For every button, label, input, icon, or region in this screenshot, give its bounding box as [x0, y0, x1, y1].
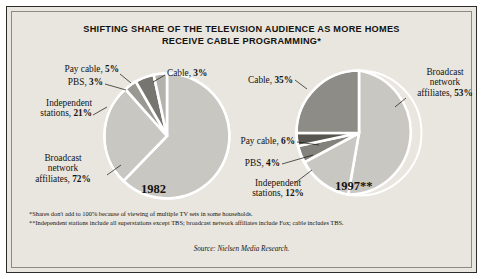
label-1982-pbs: PBS, 3%: [27, 77, 103, 87]
label-1982-pay-cable: Pay cable, 5%: [27, 64, 119, 74]
label-1997-pbs-name: PBS,: [245, 158, 264, 168]
label-1997-broadcast-line-3: affiliates, 53%: [403, 88, 477, 98]
chart-title-line-1: SHIFTING SHARE OF THE TELEVISION AUDIENC…: [7, 24, 476, 36]
label-1997-independent-value: 12%: [285, 188, 304, 198]
label-1982-pay-cable-name: Pay cable,: [65, 64, 103, 74]
label-1997-pay-cable-name: Pay cable,: [241, 136, 279, 146]
label-1997-pay-cable-value: 6%: [281, 136, 295, 146]
label-1997-independent-stations: Independent stations, 12%: [235, 178, 321, 199]
label-1997-independent-line-2: stations, 12%: [235, 188, 321, 198]
label-1982-broadcast-line-1: Broadcast: [21, 153, 105, 163]
label-1982-broadcast-line-2: network: [21, 163, 105, 173]
label-1997-broadcast-affiliates: Broadcast network affiliates, 53%: [403, 67, 477, 98]
label-1982-broadcast-name: affiliates,: [35, 174, 70, 184]
label-1982-cable: Cable, 3%: [167, 68, 207, 78]
label-1997-independent-name: stations,: [252, 188, 283, 198]
label-1982-cable-value: 3%: [193, 68, 207, 78]
label-1997-broadcast-line-1: Broadcast: [403, 67, 477, 77]
label-1997-broadcast-line-2: network: [403, 77, 477, 87]
year-label-1982: 1982: [141, 182, 166, 197]
footnote-1: *Shares don't add to 100% because of vie…: [29, 210, 253, 219]
label-1982-independent-name: stations,: [40, 108, 71, 118]
label-1982-broadcast-affiliates: Broadcast network affiliates, 72%: [21, 153, 105, 184]
label-1982-broadcast-line-3: affiliates, 72%: [21, 174, 105, 184]
source-text: Nielsen Media Research.: [216, 245, 290, 253]
source-line: Source: Nielsen Media Research.: [7, 245, 476, 253]
label-1997-pbs-value: 4%: [266, 158, 280, 168]
chart-title: SHIFTING SHARE OF THE TELEVISION AUDIENC…: [7, 24, 476, 47]
label-1982-independent-stations: Independent stations, 21%: [17, 98, 92, 119]
label-1997-cable-name: Cable,: [248, 75, 272, 85]
source-lead: Source:: [194, 245, 216, 253]
label-1982-broadcast-value: 72%: [72, 174, 91, 184]
label-1997-pay-cable: Pay cable, 6%: [207, 136, 295, 146]
label-1997-broadcast-value: 53%: [454, 88, 473, 98]
label-1997-pbs: PBS, 4%: [212, 158, 280, 168]
label-1982-pay-cable-value: 5%: [105, 64, 119, 74]
label-1982-independent-value: 21%: [73, 108, 92, 118]
footnote-2: **Independent stations include all super…: [29, 219, 344, 228]
chart-panel: SHIFTING SHARE OF THE TELEVISION AUDIENC…: [6, 6, 477, 273]
year-label-1997: 1997**: [335, 179, 373, 194]
label-1997-independent-line-1: Independent: [235, 178, 321, 188]
label-1982-cable-name: Cable,: [167, 68, 191, 78]
label-1997-cable-value: 35%: [274, 75, 293, 85]
label-1982-pbs-name: PBS,: [68, 77, 87, 87]
label-1982-independent-line-2: stations, 21%: [17, 108, 92, 118]
label-1982-pbs-value: 3%: [89, 77, 103, 87]
chart-title-line-2: RECEIVE CABLE PROGRAMMING*: [7, 36, 476, 48]
label-1982-independent-line-1: Independent: [17, 98, 92, 108]
label-1997-cable: Cable, 35%: [217, 75, 293, 85]
label-1997-broadcast-name: affiliates,: [417, 88, 452, 98]
